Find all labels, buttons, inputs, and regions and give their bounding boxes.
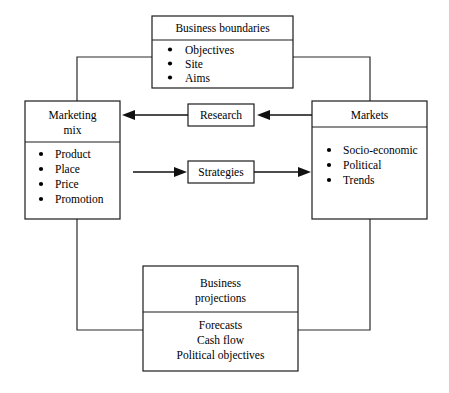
box-business-projections[interactable]: Business projections Forecasts Cash flow… [143,266,298,371]
bullet-icon [327,163,331,167]
research-label: Research [200,109,242,121]
business-boundaries-item-2: Aims [185,72,210,84]
business-boundaries-item-1: Site [185,58,203,70]
box-markets[interactable]: Markets Socio-economic Political Trends [312,101,427,219]
node-strategies[interactable]: Strategies [188,161,254,183]
bullet-icon [327,178,331,182]
connector-markets-to-projections [298,219,370,330]
business-projections-title-line2: projections [195,292,247,305]
bullet-icon [39,182,43,186]
business-projections-item-0: Forecasts [199,319,243,331]
diagram-root: Business boundaries Objectives Site Aims… [0,0,449,393]
marketing-mix-item-1: Place [55,163,80,175]
connector-boundaries-to-markets [293,57,370,101]
bullet-icon [327,148,331,152]
marketing-mix-item-0: Product [55,148,92,160]
arrow-head-icon [174,167,187,177]
box-business-boundaries[interactable]: Business boundaries Objectives Site Aims [152,16,293,88]
strategies-label: Strategies [198,166,244,179]
bullet-icon [39,197,43,201]
business-projections-item-1: Cash flow [197,334,245,346]
bullet-icon [168,61,172,65]
business-projections-title-line1: Business [200,277,241,289]
box-marketing-mix[interactable]: Marketing mix Product Place Price Promot… [25,101,120,219]
connector-boundaries-to-marketing-mix [77,57,152,101]
arrow-head-icon [257,110,270,120]
marketing-mix-item-2: Price [55,178,79,190]
markets-item-2: Trends [343,174,375,186]
node-research[interactable]: Research [188,104,254,126]
bullet-icon [39,152,43,156]
marketing-mix-title-line2: mix [64,124,82,136]
diagram-canvas: Business boundaries Objectives Site Aims… [0,0,449,393]
markets-title: Markets [351,109,389,121]
markets-item-0: Socio-economic [343,144,418,156]
marketing-mix-title-line1: Marketing [49,109,97,122]
bullet-icon [168,47,172,51]
business-boundaries-item-0: Objectives [185,44,235,57]
marketing-mix-item-3: Promotion [55,193,104,205]
bullet-icon [168,75,172,79]
business-boundaries-title: Business boundaries [175,22,270,34]
markets-item-1: Political [343,159,381,171]
bullet-icon [39,167,43,171]
connector-marketing-mix-to-projections [77,219,143,330]
arrow-head-icon [122,110,135,120]
business-projections-item-2: Political objectives [177,349,265,362]
arrow-head-icon [298,167,311,177]
